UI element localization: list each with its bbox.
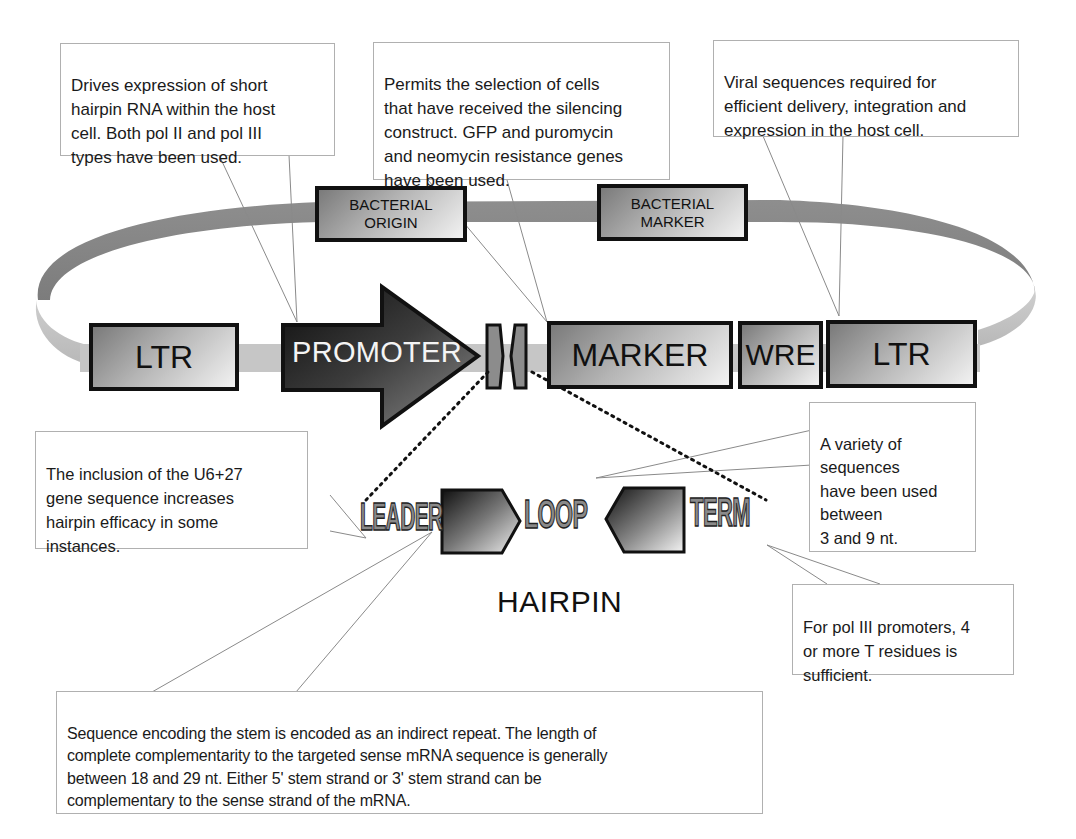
promoter-label: PROMOTER — [292, 336, 462, 369]
promoter-callout: Drives expression of short hairpin RNA w… — [60, 43, 335, 156]
ltr-right-label: LTR — [872, 336, 930, 373]
loop-callout: A variety of sequences have been used be… — [809, 402, 976, 552]
bacterial-marker-label: BACTERIAL MARKER — [631, 195, 714, 231]
leader-callout-text: The inclusion of the U6+27 gene sequence… — [46, 465, 243, 555]
stem-callout: Sequence encoding the stem is encoded as… — [56, 691, 763, 814]
marker-box: MARKER — [547, 321, 733, 389]
marker-callout: Permits the selection of cells that have… — [373, 42, 670, 180]
leader-label: LEADER — [360, 496, 443, 539]
marker-label: MARKER — [572, 337, 709, 374]
viral-callout-text: Viral sequences required for efficient d… — [724, 73, 966, 140]
marker-callout-text: Permits the selection of cells that have… — [384, 75, 623, 190]
promoter-callout-text: Drives expression of short hairpin RNA w… — [71, 76, 275, 167]
stem-sense-shape — [442, 490, 520, 553]
wre-box: WRE — [738, 321, 823, 389]
bacterial-origin-label: BACTERIAL ORIGIN — [349, 196, 432, 232]
stem-antisense-shape — [606, 488, 684, 552]
hairpin-title: HAIRPIN — [497, 585, 622, 619]
ltr-left-label: LTR — [135, 339, 193, 376]
ltr-left-box: LTR — [89, 323, 239, 391]
wre-label: WRE — [746, 338, 816, 372]
loop-label: LOOP — [524, 492, 587, 537]
term-label: TERM — [690, 490, 750, 535]
ltr-right-box: LTR — [826, 320, 977, 388]
vector-diagram: LTR PROMOTER MARKER WRE LTR BACTERIAL OR… — [0, 0, 1076, 839]
term-callout: For pol III promoters, 4 or more T resid… — [792, 584, 1014, 675]
loop-callout-text: A variety of sequences have been used be… — [820, 435, 937, 547]
stem-callout-text: Sequence encoding the stem is encoded as… — [67, 725, 607, 810]
leader-callout: The inclusion of the U6+27 gene sequence… — [35, 431, 308, 549]
bacterial-origin-box: BACTERIAL ORIGIN — [315, 186, 467, 242]
viral-callout: Viral sequences required for efficient d… — [713, 40, 1019, 137]
bacterial-marker-box: BACTERIAL MARKER — [597, 184, 748, 241]
term-callout-text: For pol III promoters, 4 or more T resid… — [803, 618, 970, 684]
